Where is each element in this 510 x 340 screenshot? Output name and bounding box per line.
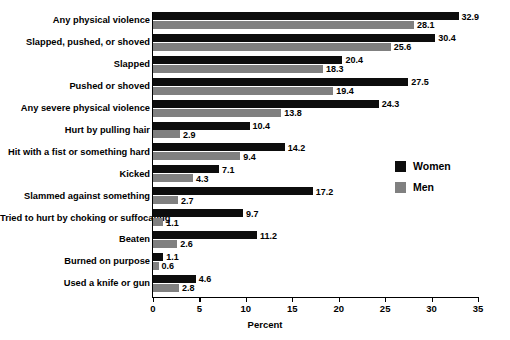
bar-women: [153, 275, 196, 283]
x-tick-label: 25: [380, 303, 391, 314]
bar-chart: Any physical violenceSlapped, pushed, or…: [0, 0, 510, 340]
category-label: Used a knife or gun: [0, 278, 150, 288]
bar-value-label: 2.8: [179, 284, 195, 292]
bar-women: [153, 143, 285, 151]
bar-women: [153, 56, 342, 64]
category-label: Hit with a fist or something hard: [0, 147, 150, 157]
bar-value-label: 0.6: [159, 262, 175, 270]
x-tick-mark: [199, 298, 200, 302]
legend-item-women: Women: [395, 160, 451, 172]
bar-men: [153, 174, 193, 182]
x-tick-label: 20: [333, 303, 344, 314]
bar-value-label: 13.8: [281, 109, 302, 117]
bar-value-label: 30.4: [435, 34, 456, 42]
bar-women: [153, 187, 313, 195]
x-tick-mark: [292, 298, 293, 302]
bar-value-label: 4.6: [196, 275, 212, 283]
x-tick-label: 30: [426, 303, 437, 314]
bar-men: [153, 43, 391, 51]
category-label: Pushed or shoved: [0, 81, 150, 91]
bar-value-label: 7.1: [219, 166, 235, 174]
bar-value-label: 32.9: [459, 13, 480, 21]
category-label: Beaten: [0, 234, 150, 244]
bar-men: [153, 21, 414, 29]
bar-value-label: 2.9: [180, 131, 196, 139]
bar-value-label: 1.1: [163, 219, 179, 227]
category-label: Slapped, pushed, or shoved: [0, 37, 150, 47]
plot-area: 32.928.130.425.620.418.327.519.424.313.8…: [153, 12, 478, 297]
category-label: Hurt by pulling hair: [0, 125, 150, 135]
bar-value-label: 28.1: [414, 21, 435, 29]
bar-women: [153, 209, 243, 217]
bar-men: [153, 65, 323, 73]
bar-women: [153, 253, 163, 261]
bar-value-label: 4.3: [193, 175, 209, 183]
x-tick-mark: [385, 298, 386, 302]
category-label: Kicked: [0, 169, 150, 179]
bar-value-label: 14.2: [285, 144, 306, 152]
x-tick-label: 10: [241, 303, 252, 314]
category-label: Slammed against something: [0, 191, 150, 201]
x-tick-label: 35: [473, 303, 484, 314]
x-tick-mark: [246, 298, 247, 302]
bar-value-label: 1.1: [163, 253, 179, 261]
x-tick-mark: [432, 298, 433, 302]
x-tick-label: 5: [197, 303, 202, 314]
bar-women: [153, 165, 219, 173]
legend-swatch-men-icon: [395, 182, 406, 193]
bar-value-label: 20.4: [342, 56, 363, 64]
bar-value-label: 27.5: [408, 78, 429, 86]
bar-women: [153, 12, 459, 20]
bar-men: [153, 240, 177, 248]
bar-value-label: 10.4: [250, 122, 271, 130]
x-tick-mark: [478, 298, 479, 302]
legend-item-men: Men: [395, 181, 451, 193]
bar-value-label: 2.6: [177, 240, 193, 248]
bar-women: [153, 231, 257, 239]
bar-value-label: 18.3: [323, 65, 344, 73]
legend: Women Men: [395, 160, 451, 202]
bar-women: [153, 78, 408, 86]
x-axis-title: Percent: [0, 319, 510, 330]
bar-value-label: 2.7: [178, 197, 194, 205]
x-tick-mark: [339, 298, 340, 302]
y-axis-line: [152, 12, 153, 298]
bar-men: [153, 152, 240, 160]
x-tick-label: 0: [150, 303, 155, 314]
category-label: Any severe physical violence: [0, 103, 150, 113]
category-label: Tried to hurt by choking or suffocating: [0, 213, 150, 223]
x-axis-title-text: Percent: [248, 319, 283, 330]
x-tick-mark: [153, 298, 154, 302]
bar-men: [153, 109, 281, 117]
bar-men: [153, 87, 333, 95]
bar-value-label: 11.2: [257, 232, 277, 240]
x-tick-label: 15: [287, 303, 298, 314]
bar-value-label: 25.6: [391, 43, 412, 51]
bar-value-label: 9.4: [240, 153, 256, 161]
category-label: Burned on purpose: [0, 256, 150, 266]
bar-value-label: 17.2: [313, 188, 334, 196]
category-label: Any physical violence: [0, 15, 150, 25]
bar-value-label: 19.4: [333, 87, 354, 95]
bar-men: [153, 196, 178, 204]
bar-women: [153, 122, 250, 130]
bar-women: [153, 34, 435, 42]
legend-label-men: Men: [413, 181, 434, 193]
bar-men: [153, 130, 180, 138]
category-label: Slapped: [0, 59, 150, 69]
bar-value-label: 9.7: [243, 210, 259, 218]
bar-men: [153, 284, 179, 292]
legend-label-women: Women: [413, 160, 451, 172]
legend-swatch-women-icon: [395, 161, 406, 172]
bar-women: [153, 100, 379, 108]
bar-men: [153, 218, 163, 226]
x-axis-line: [153, 297, 479, 298]
bar-value-label: 24.3: [379, 100, 400, 108]
